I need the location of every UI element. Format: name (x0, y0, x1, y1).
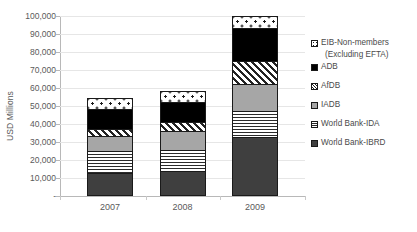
legend-item-adb[interactable]: ADB (311, 62, 415, 72)
bar-segment[interactable] (232, 16, 278, 28)
legend-item-label-continuation: (Excluding EFTA) (325, 50, 415, 60)
bar-segment[interactable] (160, 171, 206, 196)
legend-item-label: World Bank-IBRD (321, 138, 385, 148)
bar-segment[interactable] (160, 131, 206, 150)
x-axis-tick-label: 2008 (148, 202, 218, 212)
bar-group (60, 16, 305, 196)
x-axis-tick-label: 2009 (220, 202, 290, 212)
y-axis-tick-label: 40,000 (30, 119, 56, 129)
dotted-swatch (311, 40, 318, 47)
legend-item-label: AfDB (321, 81, 340, 91)
bar-segment[interactable] (160, 150, 206, 171)
legend-spacer (311, 131, 415, 138)
bar-segment[interactable] (232, 84, 278, 112)
bar-segment[interactable] (87, 136, 133, 151)
x-axis-tick (220, 196, 221, 200)
y-axis-tick-label: 90,000 (30, 29, 56, 39)
lines-swatch (311, 121, 318, 128)
bar-2007[interactable] (87, 98, 133, 196)
bar-segment[interactable] (232, 61, 278, 84)
bar-segment[interactable] (232, 28, 278, 61)
y-axis-tick-label: 70,000 (30, 65, 56, 75)
bar-segment[interactable] (87, 173, 133, 196)
legend-item-label: EIB-Non-members (321, 38, 389, 48)
bar-segment[interactable] (232, 111, 278, 136)
legend-item-afdb[interactable]: AfDB (311, 81, 415, 91)
legend-item-label: World Bank-IDA (321, 119, 380, 129)
black-swatch (311, 64, 318, 71)
bar-segment[interactable] (87, 151, 133, 173)
x-axis-tick (305, 196, 306, 200)
chart-legend: EIB-Non-members(Excluding EFTA)ADBAfDBIA… (311, 38, 415, 150)
legend-item-iadb[interactable]: IADB (311, 100, 415, 110)
bar-2009[interactable] (232, 16, 278, 196)
bar-segment[interactable] (87, 109, 133, 130)
dark-gray-swatch (311, 140, 318, 147)
bar-segment[interactable] (160, 102, 206, 123)
legend-item-world-bank-ibrd[interactable]: World Bank-IBRD (311, 138, 415, 148)
plot-area (60, 16, 305, 196)
x-axis-tick-label: 2007 (75, 202, 145, 212)
x-axis-line (60, 196, 306, 197)
legend-item-world-bank-ida[interactable]: World Bank-IDA (311, 119, 415, 129)
y-axis-tick-label: 60,000 (30, 83, 56, 93)
y-axis-tick-label: 30,000 (30, 137, 56, 147)
legend-item-eib-non-members[interactable]: EIB-Non-members (311, 38, 415, 48)
bar-segment[interactable] (232, 137, 278, 196)
legend-spacer (311, 112, 415, 119)
hatch-swatch (311, 83, 318, 90)
light-gray-swatch (311, 102, 318, 109)
bar-segment[interactable] (160, 122, 206, 131)
legend-item-label: ADB (321, 62, 338, 72)
y-axis-tick-label: 10,000 (30, 173, 56, 183)
y-axis-tick-label: 100,000 (25, 11, 56, 21)
legend-spacer (311, 93, 415, 100)
y-axis-tick-label: 50,000 (30, 101, 56, 111)
legend-spacer (311, 74, 415, 81)
y-axis-tick-labels: 100,00090,00080,00070,00060,00050,00040,… (14, 16, 56, 197)
x-axis-tick (146, 196, 147, 200)
y-axis-tick-label: 80,000 (30, 47, 56, 57)
bar-2008[interactable] (160, 91, 206, 196)
x-axis-tick (60, 196, 61, 200)
bar-segment[interactable] (87, 98, 133, 109)
legend-item-label: IADB (321, 100, 340, 110)
y-axis-tick-label: 20,000 (30, 155, 56, 165)
stacked-bar-chart: USD Millions 100,00090,00080,00070,00060… (0, 0, 417, 232)
bar-segment[interactable] (160, 91, 206, 102)
